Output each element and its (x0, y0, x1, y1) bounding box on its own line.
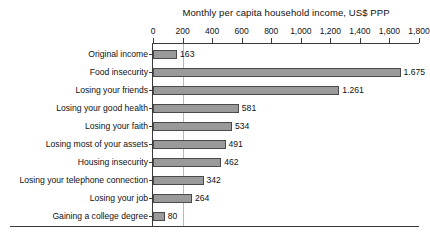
bar (153, 176, 204, 185)
y-tick-mark (149, 108, 152, 109)
bar (153, 50, 177, 59)
y-tick-mark (149, 126, 152, 127)
y-tick-mark (149, 198, 152, 199)
bar (153, 68, 401, 77)
y-tick-mark (149, 54, 152, 55)
y-tick-mark (149, 216, 152, 217)
x-tick-label: 1,800 (408, 26, 429, 36)
bar-value-label: 462 (224, 157, 238, 167)
x-tick-label: 1,600 (379, 26, 400, 36)
bar-value-label: 581 (242, 103, 256, 113)
bar-row: Losing your faith534 (0, 118, 425, 136)
bar (153, 122, 232, 131)
x-tick-mark (419, 38, 420, 43)
category-label: Losing your job (90, 193, 148, 203)
bar (153, 86, 339, 95)
y-tick-mark (149, 90, 152, 91)
bar-row: Gaining a college degree80 (0, 208, 425, 226)
x-tick-label: 800 (264, 26, 278, 36)
bar-value-label: 534 (235, 121, 249, 131)
bar (153, 158, 221, 167)
bar-value-label: 342 (207, 175, 221, 185)
y-tick-mark (149, 162, 152, 163)
bar-row: Losing your good health581 (0, 100, 425, 118)
x-tick-label: 400 (205, 26, 219, 36)
y-tick-mark (149, 144, 152, 145)
bar-value-label: 1.261 (342, 85, 364, 95)
x-axis-tick-labels: 02004006008001,0001,2001,4001,6001,800 (0, 26, 425, 38)
x-tick-label: 1,400 (349, 26, 370, 36)
bar-value-label: 80 (168, 211, 178, 221)
bar-row: Original income163 (0, 46, 425, 64)
chart-title: Monthly per capita household income, US$… (153, 7, 419, 18)
category-label: Losing most of your assets (46, 139, 148, 149)
category-label: Gaining a college degree (52, 211, 148, 221)
x-tick-label: 1,200 (320, 26, 341, 36)
category-label: Original income (88, 49, 148, 59)
category-label: Losing your good health (56, 103, 148, 113)
bar-row: Losing your telephone connection342 (0, 172, 425, 190)
bottom-rule (10, 226, 419, 227)
bar-row: Housing insecurity462 (0, 154, 425, 172)
category-label: Losing your friends (75, 85, 148, 95)
bar (153, 140, 226, 149)
bar (153, 104, 239, 113)
category-label: Losing your telephone connection (19, 175, 148, 185)
x-tick-label: 600 (235, 26, 249, 36)
x-tick-label: 0 (151, 26, 156, 36)
bar-row: Food insecurity1.675 (0, 64, 425, 82)
category-label: Housing insecurity (78, 157, 148, 167)
bar-row: Losing your job264 (0, 190, 425, 208)
bar-value-label: 491 (229, 139, 243, 149)
bar-value-label: 1.675 (404, 67, 426, 77)
bar-row: Losing most of your assets491 (0, 136, 425, 154)
x-tick-label: 200 (175, 26, 189, 36)
y-tick-mark (149, 180, 152, 181)
bar (153, 194, 192, 203)
category-label: Food insecurity (90, 67, 148, 77)
y-tick-mark (149, 72, 152, 73)
bar-value-label: 264 (195, 193, 209, 203)
bar-row: Losing your friends1.261 (0, 82, 425, 100)
bar-value-label: 163 (180, 49, 194, 59)
category-label: Losing your faith (85, 121, 148, 131)
x-tick-label: 1,000 (290, 26, 311, 36)
bar (153, 212, 165, 221)
